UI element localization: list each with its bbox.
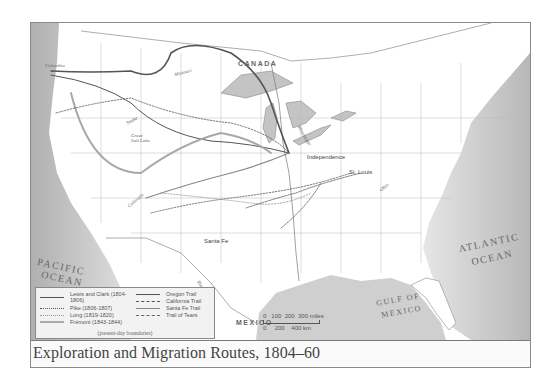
- great-salt-lake-label: Great Salt Lake: [131, 133, 151, 143]
- legend-item-long: Long (1819-1820): [40, 312, 114, 318]
- legend-note: (present-day boundaries): [36, 330, 214, 336]
- city-santa-fe: Santa Fe: [204, 238, 228, 244]
- scale-km: 0 200 400 km: [263, 325, 324, 331]
- legend-item-pike: Pike (1806-1807): [40, 305, 112, 311]
- figure-caption: Exploration and Migration Routes, 1804–6…: [31, 341, 530, 367]
- legend-item-lewis-clark: Lewis and Clark (1804-1806): [40, 291, 130, 303]
- river-columbia: Columbia: [45, 63, 65, 68]
- city-independence: Independence: [307, 154, 345, 160]
- legend-item-california-trail: California Trail: [136, 298, 201, 304]
- caption-title: Exploration and Migration Routes, 1804–6…: [33, 344, 320, 362]
- city-st-louis: St. Louis: [349, 169, 372, 175]
- map-legend: Lewis and Clark (1804-1806) Pike (1806-1…: [35, 287, 215, 339]
- legend-item-oregon-trail: Oregon Trail: [136, 291, 196, 297]
- map-figure: CANADA MEXICO PACIFIC OCEAN ATLANTIC OCE…: [30, 22, 531, 368]
- map-scale: 0 100 200 300 miles 0 200 400 km: [263, 313, 324, 331]
- legend-item-fremont: Frémont (1843-1844): [40, 319, 122, 325]
- scale-bar: [263, 320, 320, 324]
- canada-label: CANADA: [238, 60, 277, 67]
- legend-item-trail-of-tears: Trail of Tears: [136, 312, 197, 318]
- scale-miles: 0 100 200 300 miles: [263, 313, 324, 319]
- legend-item-santa-fe-trail: Santa Fe Trail: [136, 305, 200, 311]
- map-area: CANADA MEXICO PACIFIC OCEAN ATLANTIC OCE…: [31, 23, 530, 341]
